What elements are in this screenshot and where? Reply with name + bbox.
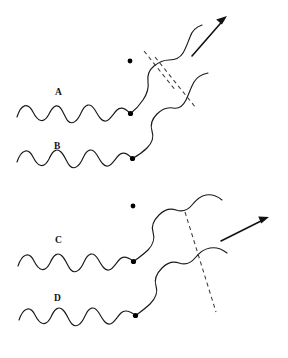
lower-direction-arrow: [221, 217, 269, 241]
upper-free-dot: [128, 59, 133, 64]
wave-D-outgoing-path: [136, 248, 228, 316]
upper-arrow-shaft: [192, 21, 223, 57]
wave-C-outgoing-path: [134, 195, 223, 262]
wave-B-outgoing-path: [133, 73, 209, 159]
wave-C-scatter-dot: [131, 259, 136, 264]
lower-panel-group: [18, 195, 269, 326]
label-B: B: [54, 142, 61, 152]
wave-D-scatter-dot: [133, 313, 138, 318]
lower-free-dot: [131, 204, 136, 209]
wave-A-outgoing-path: [131, 25, 203, 114]
figure-canvas: [0, 0, 288, 358]
label-D: D: [54, 294, 61, 304]
wave-D-incoming-path: [19, 308, 135, 326]
wave-B-scatter-dot: [130, 156, 135, 161]
wave-A-incoming-path: [17, 105, 130, 123]
label-A: A: [55, 88, 62, 98]
lower-arrow-shaft: [221, 219, 265, 241]
upper-arrow-head: [216, 16, 227, 25]
upper-direction-arrow: [192, 16, 227, 56]
wave-B-incoming-path: [17, 150, 132, 168]
wave-scattering-figure: A B C D: [0, 0, 288, 358]
wave-C-incoming-path: [18, 254, 133, 272]
upper-dashed-line-2: [155, 57, 196, 108]
label-C: C: [55, 236, 62, 246]
wave-A-scatter-dot: [128, 111, 133, 116]
upper-panel-group: [17, 16, 227, 168]
